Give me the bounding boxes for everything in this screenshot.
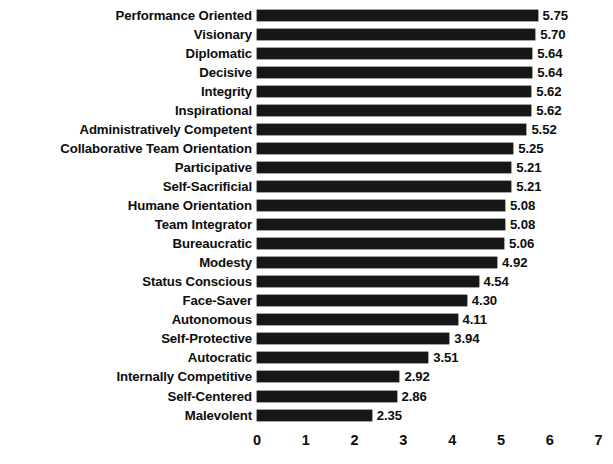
bar-value-label: 5.75 (543, 6, 568, 25)
bar-value-label: 5.52 (531, 120, 556, 139)
x-tick-label: 1 (291, 430, 321, 450)
bar-row: Autocratic3.51 (0, 348, 613, 367)
bar (257, 10, 538, 21)
bar (257, 86, 531, 97)
bar (257, 410, 372, 421)
bar-value-label: 5.64 (537, 44, 562, 63)
bar (257, 314, 458, 325)
category-label: Status Conscious (142, 272, 252, 291)
bar-row: Decisive5.64 (0, 63, 613, 82)
bar-row: Self-Sacrificial5.21 (0, 177, 613, 196)
x-tick-label: 6 (535, 430, 565, 450)
category-label: Diplomatic (186, 44, 252, 63)
bar (257, 371, 399, 382)
bar (257, 295, 467, 306)
bar-value-label: 4.54 (484, 272, 509, 291)
category-label: Participative (175, 158, 252, 177)
category-label: Performance Oriented (115, 6, 252, 25)
category-label: Self-Protective (161, 329, 252, 348)
bar (257, 181, 511, 192)
bar-value-label: 5.21 (516, 177, 541, 196)
bar (257, 48, 532, 59)
bar-value-label: 5.08 (510, 196, 535, 215)
bar-row: Diplomatic5.64 (0, 44, 613, 63)
x-tick-label: 7 (584, 430, 613, 450)
bar (257, 162, 511, 173)
bar-row: Internally Competitive2.92 (0, 367, 613, 386)
bar-value-label: 5.70 (540, 25, 565, 44)
bar-value-label: 4.11 (463, 310, 488, 329)
bar-row: Self-Centered2.86 (0, 387, 613, 406)
bar-value-label: 5.62 (536, 101, 561, 120)
bar (257, 124, 526, 135)
bar-row: Performance Oriented5.75 (0, 6, 613, 25)
bar-row: Humane Orientation5.08 (0, 196, 613, 215)
bar-row: Visionary5.70 (0, 25, 613, 44)
bar-value-label: 2.92 (404, 367, 429, 386)
bar (257, 238, 504, 249)
bar (257, 219, 505, 230)
bar-row: Team Integrator5.08 (0, 215, 613, 234)
bar-row: Face-Saver4.30 (0, 291, 613, 310)
bar-row: Collaborative Team Orientation5.25 (0, 139, 613, 158)
category-label: Administratively Competent (79, 120, 252, 139)
category-label: Decisive (199, 63, 252, 82)
bar-row: Autonomous4.11 (0, 310, 613, 329)
x-tick-label: 5 (486, 430, 516, 450)
bar (257, 391, 397, 402)
bar-value-label: 5.08 (510, 215, 535, 234)
category-label: Internally Competitive (116, 367, 252, 386)
bar (257, 143, 513, 154)
category-label: Autocratic (188, 348, 252, 367)
x-tick-label: 4 (437, 430, 467, 450)
bar-value-label: 3.94 (454, 329, 479, 348)
bar (257, 257, 497, 268)
category-label: Bureaucratic (173, 234, 252, 253)
category-label: Face-Saver (183, 291, 252, 310)
bar-row: Bureaucratic5.06 (0, 234, 613, 253)
bar-row: Malevolent2.35 (0, 406, 613, 425)
bar (257, 200, 505, 211)
bar (257, 67, 532, 78)
category-label: Team Integrator (155, 215, 252, 234)
bar-value-label: 5.64 (537, 63, 562, 82)
bar-row: Status Conscious4.54 (0, 272, 613, 291)
bar-value-label: 2.35 (377, 406, 402, 425)
bar-value-label: 4.30 (472, 291, 497, 310)
category-label: Self-Sacrificial (163, 177, 252, 196)
bar-row: Inspirational5.62 (0, 101, 613, 120)
bar-value-label: 2.86 (402, 387, 427, 406)
x-tick-label: 3 (388, 430, 418, 450)
bar-value-label: 5.62 (536, 82, 561, 101)
bar-value-label: 5.21 (516, 158, 541, 177)
bar-value-label: 5.25 (518, 139, 543, 158)
x-tick-label: 0 (242, 430, 272, 450)
category-label: Modesty (199, 253, 252, 272)
bar-chart: Performance Oriented5.75Visionary5.70Dip… (0, 0, 613, 464)
category-label: Visionary (194, 25, 252, 44)
category-label: Autonomous (172, 310, 252, 329)
category-label: Self-Centered (168, 387, 252, 406)
bar (257, 105, 531, 116)
category-label: Integrity (201, 82, 252, 101)
bar-value-label: 4.92 (502, 253, 527, 272)
bar (257, 333, 449, 344)
bar (257, 276, 479, 287)
bar-value-label: 5.06 (509, 234, 534, 253)
x-axis: 01234567 (0, 430, 613, 460)
bar-row: Integrity5.62 (0, 82, 613, 101)
category-label: Malevolent (185, 406, 252, 425)
bar (257, 29, 535, 40)
bar-row: Self-Protective3.94 (0, 329, 613, 348)
bar-value-label: 3.51 (433, 348, 458, 367)
bar-row: Administratively Competent5.52 (0, 120, 613, 139)
bar-row: Participative5.21 (0, 158, 613, 177)
x-tick-label: 2 (340, 430, 370, 450)
category-label: Humane Orientation (128, 196, 252, 215)
bar-row: Modesty4.92 (0, 253, 613, 272)
category-label: Inspirational (175, 101, 252, 120)
bar (257, 352, 428, 363)
category-label: Collaborative Team Orientation (60, 139, 252, 158)
